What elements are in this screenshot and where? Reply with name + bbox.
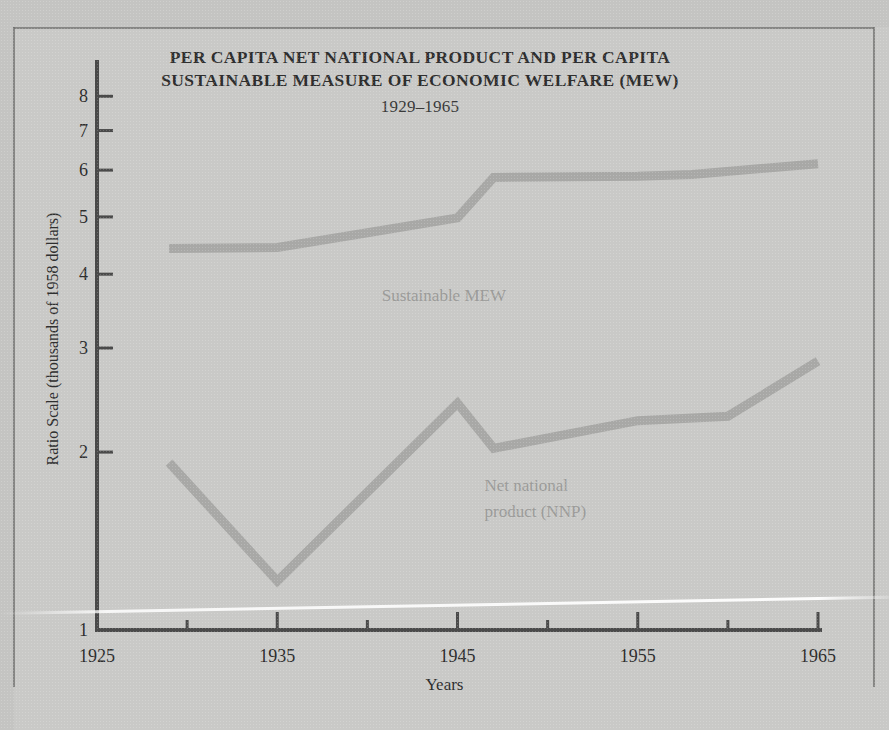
plot-area: 12345678 19251935194519551965 Sustainabl…: [0, 0, 889, 730]
x-axis-tick-label: 1945: [440, 646, 476, 666]
x-axis-tick-label: 1935: [259, 646, 295, 666]
series-line-sustainable-mew: [169, 164, 818, 249]
y-axis-tick-label: 7: [79, 121, 88, 141]
y-axis-tick-label: 6: [79, 160, 88, 180]
y-axis-tick-label: 8: [79, 86, 88, 106]
chart-figure: PER CAPITA NET NATIONAL PRODUCT AND PER …: [0, 0, 889, 730]
series-annotation-nnp-line-2: product (NNP): [485, 502, 587, 521]
series-line-net-national-product: [169, 361, 818, 581]
series-annotation-nnp-line-1: Net national: [485, 476, 569, 495]
y-axis-tick-label: 3: [79, 338, 88, 358]
y-axis-tick-label: 2: [79, 442, 88, 462]
y-axis-tick-label: 1: [79, 620, 88, 640]
y-axis-tick-label: 4: [79, 264, 88, 284]
x-axis-tick-label: 1965: [800, 646, 836, 666]
x-axis-tick-label: 1955: [620, 646, 656, 666]
x-axis-tick-label: 1925: [79, 646, 115, 666]
series-annotation-sustainable-mew: Sustainable MEW: [382, 286, 507, 305]
y-axis-tick-label: 5: [79, 207, 88, 227]
x-axis-tick-group: 19251935194519551965: [79, 612, 836, 666]
